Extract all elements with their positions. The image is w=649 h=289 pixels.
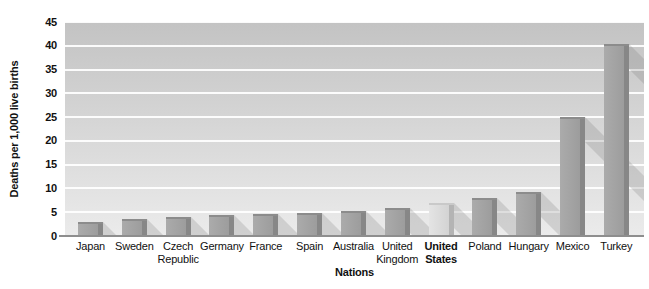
- bar-united-kingdom: [385, 208, 410, 236]
- x-axis-labels: JapanSwedenCzech RepublicGermanyFranceSp…: [65, 240, 644, 266]
- bar-side-face: [317, 215, 322, 236]
- gridline-40: [65, 45, 644, 47]
- y-tick-20: 20: [0, 134, 57, 147]
- gridline-35: [65, 69, 644, 71]
- gridline-10: [65, 187, 644, 189]
- bar-side-face: [580, 119, 585, 236]
- infant-mortality-bar-chart: Deaths per 1,000 live births 05101520253…: [0, 0, 649, 289]
- bar-turkey: [604, 44, 629, 236]
- gridline-25: [65, 116, 644, 118]
- bar-czech-republic: [166, 217, 191, 236]
- plot-area: [65, 22, 644, 236]
- bar-france: [253, 214, 278, 236]
- bar-mexico: [560, 117, 585, 236]
- bar-side-face: [361, 213, 366, 236]
- bar-side-face: [142, 221, 147, 236]
- gridline-30: [65, 92, 644, 94]
- bar-germany: [209, 215, 234, 236]
- bar-side-face: [273, 216, 278, 236]
- gridline-20: [65, 140, 644, 142]
- bar-side-face: [536, 194, 541, 236]
- bar-side-face: [186, 219, 191, 236]
- x-label-turkey: Turkey: [590, 240, 642, 253]
- y-tick-10: 10: [0, 182, 57, 195]
- bar-sweden: [122, 219, 147, 236]
- gridline-45: [65, 22, 644, 23]
- bar-japan: [78, 222, 103, 236]
- bar-side-face: [492, 200, 497, 236]
- x-axis-title: Nations: [65, 266, 644, 278]
- bar-side-face: [624, 46, 629, 236]
- x-axis-baseline: [59, 235, 644, 237]
- bar-side-face: [229, 217, 234, 236]
- y-tick-40: 40: [0, 39, 57, 52]
- y-tick-35: 35: [0, 63, 57, 76]
- y-tick-30: 30: [0, 87, 57, 100]
- y-tick-15: 15: [0, 158, 57, 171]
- bar-hungary: [516, 192, 541, 236]
- bar-side-face: [405, 210, 410, 236]
- y-axis-ticks: 051015202530354045: [0, 22, 57, 236]
- bar-australia: [341, 211, 366, 236]
- gridline-15: [65, 164, 644, 166]
- y-tick-25: 25: [0, 111, 57, 124]
- y-tick-45: 45: [0, 16, 57, 29]
- bar-poland: [472, 198, 497, 236]
- bar-united-states: [429, 203, 454, 236]
- bar-spain: [297, 213, 322, 236]
- y-tick-5: 5: [0, 206, 57, 219]
- y-tick-0: 0: [0, 230, 57, 243]
- bar-side-face: [449, 205, 454, 236]
